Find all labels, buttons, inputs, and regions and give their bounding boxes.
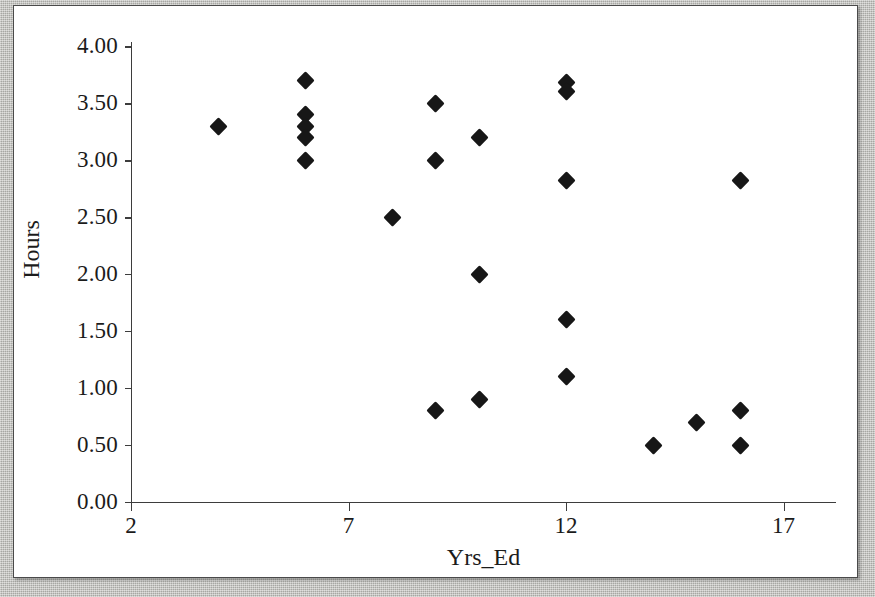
data-point-marker (426, 402, 444, 420)
y-axis-tick (125, 46, 132, 47)
y-axis-tick-label: 4.00 (30, 34, 118, 57)
data-point-marker (687, 413, 705, 431)
y-axis-line (131, 42, 132, 503)
data-point-marker (731, 402, 749, 420)
data-point-marker (557, 311, 575, 329)
x-axis-title: Yrs_Ed (131, 544, 836, 571)
y-axis-tick (125, 160, 132, 161)
data-point-marker (296, 151, 314, 169)
x-axis-tick (131, 503, 132, 511)
data-point-marker (426, 94, 444, 112)
x-axis-tick-label: 7 (319, 514, 379, 537)
y-axis-tick-label: 0.50 (30, 433, 118, 456)
y-axis-tick (125, 331, 132, 332)
data-point-marker (557, 172, 575, 190)
y-axis-tick-label: 3.00 (30, 148, 118, 171)
data-point-marker (209, 117, 227, 135)
data-point-marker (470, 128, 488, 146)
data-point-marker (296, 71, 314, 89)
data-point-marker (470, 390, 488, 408)
figure-card: 0.000.501.001.502.002.503.003.504.00 271… (13, 5, 858, 578)
y-axis-tick (125, 445, 132, 446)
y-axis-title: Hours (18, 170, 45, 330)
data-point-marker (731, 436, 749, 454)
data-point-marker (644, 436, 662, 454)
x-axis-tick-label: 12 (536, 514, 596, 537)
data-point-marker (383, 208, 401, 226)
x-axis-tick (784, 503, 785, 511)
y-axis-tick-label: 3.50 (30, 91, 118, 114)
y-axis-tick (125, 217, 132, 218)
y-axis-tick-label: 1.00 (30, 376, 118, 399)
data-point-marker (731, 172, 749, 190)
y-axis-tick (125, 103, 132, 104)
scatter-plot-area: 0.000.501.001.502.002.503.003.504.00 271… (14, 6, 859, 579)
data-point-marker (557, 368, 575, 386)
data-point-marker (296, 128, 314, 146)
x-axis-line (131, 502, 836, 503)
data-point-marker (426, 151, 444, 169)
x-axis-tick-label: 17 (754, 514, 814, 537)
y-axis-tick-label: 0.00 (30, 490, 118, 513)
y-axis-tick (125, 388, 132, 389)
y-axis-tick (125, 274, 132, 275)
x-axis-tick-label: 2 (101, 514, 161, 537)
x-axis-tick (566, 503, 567, 511)
data-point-marker (470, 265, 488, 283)
x-axis-tick (349, 503, 350, 511)
